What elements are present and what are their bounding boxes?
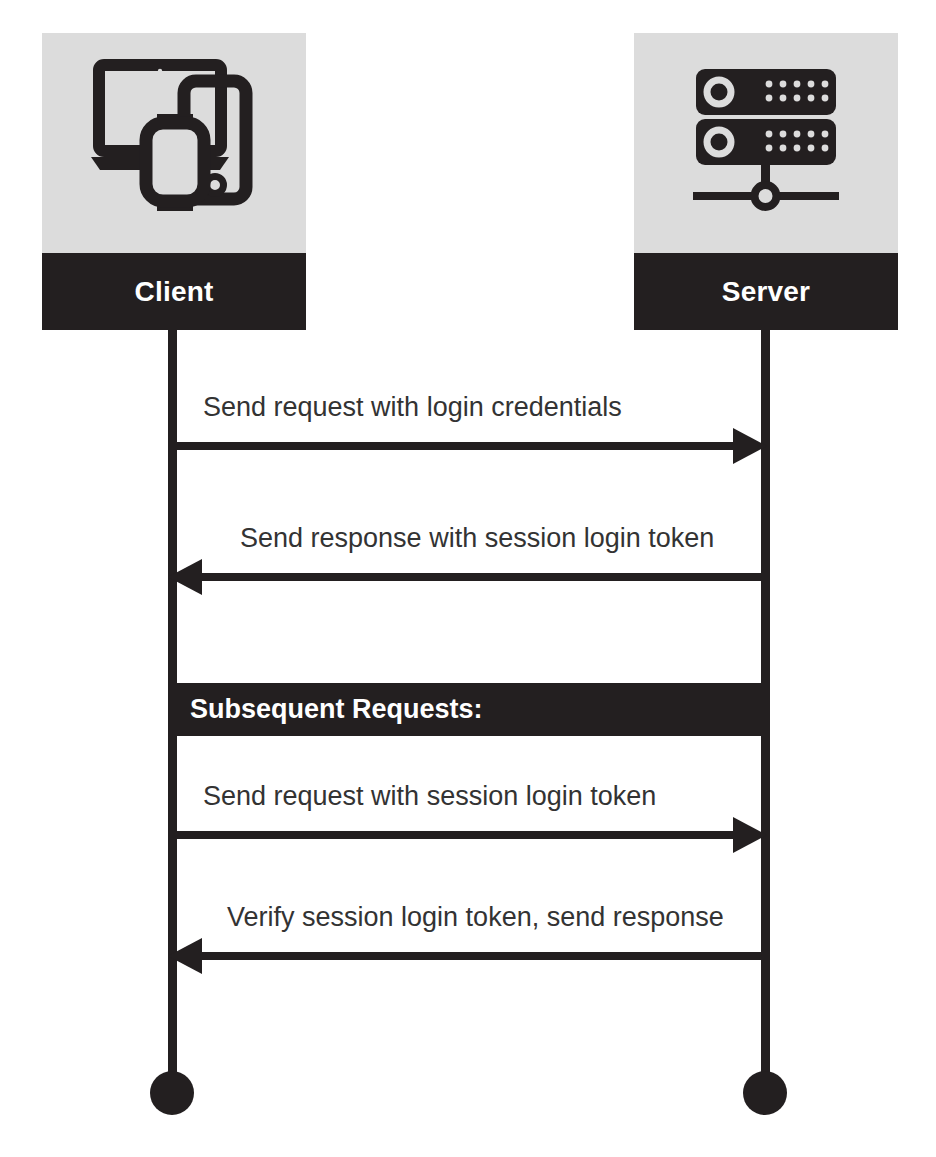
section-banner-label: Subsequent Requests: (168, 694, 483, 725)
message-line-3 (172, 831, 737, 839)
sequence-diagram: Client (0, 0, 936, 1157)
message-line-2 (199, 573, 765, 581)
participant-label-server: Server (722, 276, 810, 308)
section-banner: Subsequent Requests: (168, 683, 770, 736)
message-label-2: Send response with session login token (240, 523, 714, 554)
participant-server: Server (634, 33, 898, 330)
lifeline-end-dot-client (150, 1071, 194, 1115)
server-rack-icon (691, 66, 841, 216)
message-arrowhead-1 (733, 428, 767, 464)
server-label-band: Server (634, 253, 898, 330)
client-label-band: Client (42, 253, 306, 330)
message-arrowhead-3 (733, 817, 767, 853)
participant-label-client: Client (135, 276, 214, 308)
client-icon-area (42, 33, 306, 253)
message-arrowhead-4 (168, 938, 202, 974)
message-line-1 (172, 442, 737, 450)
server-icon-area (634, 33, 898, 253)
lifeline-end-dot-server (743, 1071, 787, 1115)
message-label-3: Send request with session login token (203, 781, 656, 812)
participant-client: Client (42, 33, 306, 330)
message-arrowhead-2 (168, 559, 202, 595)
devices-icon (89, 59, 259, 224)
message-line-4 (199, 952, 765, 960)
message-label-1: Send request with login credentials (203, 392, 622, 423)
message-label-4: Verify session login token, send respons… (227, 902, 724, 933)
